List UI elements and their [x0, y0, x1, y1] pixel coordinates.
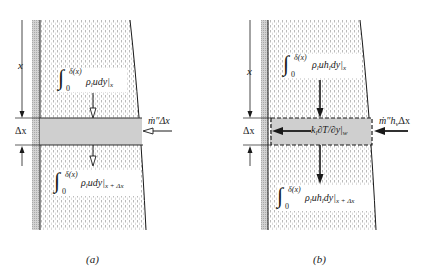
- wall-heat-flux-label: kl∂T/∂y|w: [311, 125, 348, 137]
- panel-b: x Δx ṁ″hvΔx kl∂T/∂y|w ∫ δ(x) 0 ρluhldy|x…: [213, 0, 426, 275]
- panel-b-drawing: [213, 0, 426, 275]
- panel-a-caption: (a): [86, 253, 99, 265]
- dimension-dx-label: Δx: [243, 126, 254, 136]
- bottom-enthalpy-flux-expression: ∫ δ(x) 0 ρluhldy|x + Δx: [277, 185, 373, 211]
- dimension-x-label: x: [247, 66, 252, 77]
- integral-sign: ∫: [58, 67, 64, 89]
- integral-sign: ∫: [277, 185, 283, 207]
- dimension-x-label: x: [18, 60, 23, 71]
- panel-b-caption: (b): [313, 253, 326, 265]
- dimension-dx-label: Δx: [15, 126, 26, 136]
- bottom-mass-flux-expression: ∫ δ(x) 0 ρludy|x + Δx: [54, 170, 140, 196]
- top-enthalpy-flux-expression: ∫ δ(x) 0 ρluhldy|x: [283, 54, 361, 78]
- integral-sign: ∫: [283, 53, 289, 75]
- wall: [261, 20, 268, 230]
- panel-a: x Δx ṁ″Δx ∫ δ(x) 0 ρludy|x ∫ δ(x) 0 ρlud…: [0, 0, 213, 275]
- evaporation-enthalpy-label: ṁ″hvΔx: [379, 116, 410, 128]
- control-volume-band: [40, 118, 142, 145]
- integral-sign: ∫: [54, 170, 60, 192]
- top-mass-flux-expression: ∫ δ(x) 0 ρludy|x: [58, 68, 126, 92]
- panel-a-drawing: [0, 0, 213, 275]
- evaporation-flux-label: ṁ″Δx: [148, 116, 170, 126]
- wall: [32, 20, 40, 230]
